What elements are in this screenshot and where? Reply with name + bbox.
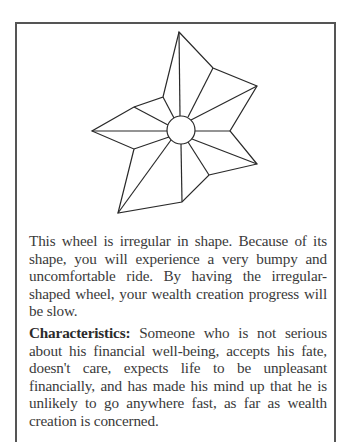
wheel-description: This wheel is irregular in shape. Becaus… <box>29 232 327 320</box>
irregular-wheel-figure <box>0 0 358 222</box>
characteristics-label: Characteristics: <box>29 324 130 341</box>
characteristics-paragraph: Characteristics: Someone who is not seri… <box>29 324 327 430</box>
irregular-wheel-icon <box>0 0 358 222</box>
